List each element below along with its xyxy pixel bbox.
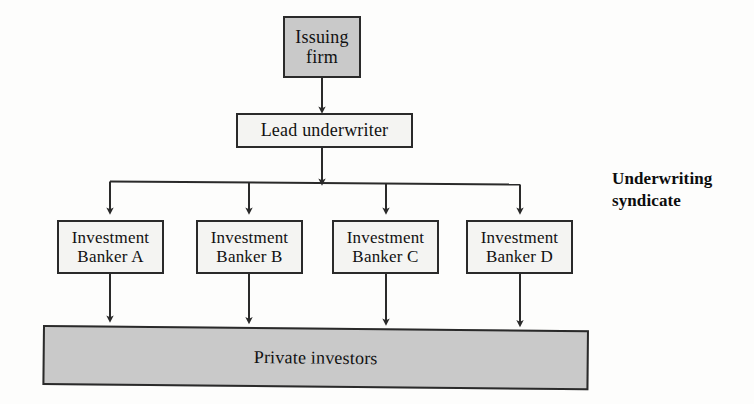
distribution-bus <box>110 182 520 185</box>
node-investment-banker-b: Investment Banker B <box>196 220 303 274</box>
node-investment-banker-a-label: Investment Banker A <box>72 228 150 266</box>
node-lead-underwriter: Lead underwriter <box>236 113 413 148</box>
annotation-underwriting-syndicate: Underwriting syndicate <box>612 168 747 213</box>
node-investment-banker-c-label: Investment Banker C <box>347 228 425 266</box>
node-investment-banker-c: Investment Banker C <box>332 220 439 274</box>
diagram-canvas: Issuing firm Lead underwriter Investment… <box>0 0 754 404</box>
node-investment-banker-d-label: Investment Banker D <box>481 228 559 266</box>
node-issuing-firm-label: Issuing firm <box>295 27 348 67</box>
node-lead-underwriter-label: Lead underwriter <box>261 120 389 140</box>
node-investment-banker-a: Investment Banker A <box>57 220 164 274</box>
node-investment-banker-b-label: Investment Banker B <box>211 228 289 266</box>
node-private-investors-label: Private investors <box>254 347 378 368</box>
node-investment-banker-d: Investment Banker D <box>466 220 573 274</box>
node-issuing-firm: Issuing firm <box>283 16 361 78</box>
node-private-investors: Private investors <box>42 325 589 390</box>
